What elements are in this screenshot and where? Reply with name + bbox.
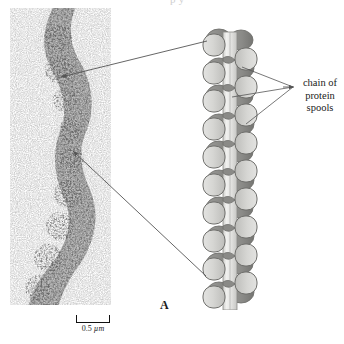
- panel-letter-a: A: [160, 298, 169, 313]
- electron-micrograph-panel: [10, 8, 111, 305]
- solenoid-diagram-svg: [190, 28, 270, 310]
- scale-bar: 0.5 µm: [64, 315, 122, 333]
- scale-bar-value: 0.5: [82, 324, 92, 333]
- scale-bar-unit: µm: [94, 324, 104, 333]
- micrograph-image: [10, 8, 111, 305]
- spool-front-right: [235, 48, 257, 294]
- figure-chromatin-fiber: p y: [0, 0, 344, 344]
- top-caption-fragment: p y: [170, 0, 344, 5]
- callout-label-chain-of-protein-spools: chain of protein spools: [296, 77, 344, 115]
- callout-line-3: spools: [296, 102, 344, 115]
- callout-line-1: chain of: [296, 77, 344, 90]
- scale-bar-label: 0.5 µm: [64, 324, 122, 333]
- callout-line-2: protein: [296, 90, 344, 103]
- solenoid-diagram: [190, 28, 270, 310]
- scale-bar-bracket: [76, 315, 110, 323]
